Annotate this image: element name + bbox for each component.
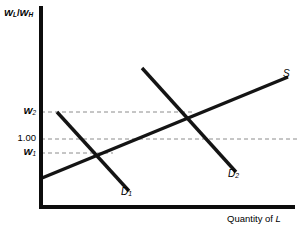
curve-label-d1-sub: 1 xyxy=(128,190,132,197)
curve-label-s-text: S xyxy=(283,68,290,79)
y-axis-title-w-low: W xyxy=(4,7,13,18)
y-tick-label-w1: W1 xyxy=(0,147,36,158)
curve-label-d2: D2 xyxy=(228,169,239,180)
demand-curve-d1 xyxy=(57,112,129,191)
y-tick-label-unity: 1.00 xyxy=(0,133,36,143)
y-axis-title-sub-h: H xyxy=(29,11,34,18)
y-axis-title: WL/WH xyxy=(4,8,33,19)
x-axis-title-italic: L xyxy=(276,213,281,224)
y-tick-unity-value: 1.00 xyxy=(18,132,37,143)
curve-label-d1: D1 xyxy=(121,187,132,198)
labor-market-chart: WL/WH W2 1.00 W1 S D1 D2 Quantity of L xyxy=(0,0,297,229)
x-axis-title-text: Quantity of xyxy=(227,213,276,224)
demand-curve-d2 xyxy=(142,68,236,172)
axes-group xyxy=(39,6,295,207)
x-axis-title: Quantity of L xyxy=(227,214,281,224)
y-tick-w1-sub: 1 xyxy=(32,150,36,157)
chart-canvas xyxy=(0,0,297,229)
guide-lines-group xyxy=(41,112,297,153)
curve-label-d2-sub: 2 xyxy=(235,172,239,179)
y-tick-w2-sub: 2 xyxy=(32,109,36,116)
curve-label-s: S xyxy=(283,69,290,79)
y-axis-title-w-high: W xyxy=(20,7,29,18)
curves-group xyxy=(42,68,288,191)
y-tick-label-w2: W2 xyxy=(0,106,36,117)
